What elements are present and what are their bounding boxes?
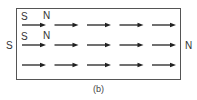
domain-arrow	[152, 63, 176, 67]
domain-arrow	[87, 23, 111, 27]
domain-arrow	[22, 23, 46, 27]
domain-arrow	[152, 23, 176, 27]
domain-arrow	[22, 63, 46, 67]
domain-arrow	[120, 43, 144, 47]
domain-arrow	[87, 63, 111, 67]
domain-arrow	[55, 43, 79, 47]
domain-arrow	[87, 43, 111, 47]
domain-arrow	[22, 43, 46, 47]
domain-arrow	[152, 43, 176, 47]
domain-arrow	[55, 23, 79, 27]
domain-arrow	[55, 63, 79, 67]
domain-arrow	[120, 23, 144, 27]
figure-caption: (b)	[0, 84, 197, 94]
domain-arrow	[120, 63, 144, 67]
